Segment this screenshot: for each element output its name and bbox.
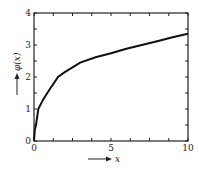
chart: 051001234 x φ(x) [0, 0, 199, 170]
arrow-right-icon [106, 157, 112, 162]
arrow-up-icon [15, 73, 20, 79]
svg-text:3: 3 [25, 40, 31, 50]
phi-curve [34, 34, 188, 141]
svg-text:10: 10 [182, 143, 194, 153]
svg-text:5: 5 [108, 143, 114, 153]
tick-labels: 051001234 [25, 8, 194, 153]
svg-text:4: 4 [25, 8, 31, 18]
x-axis-label: x [88, 154, 120, 164]
y-axis-label: φ(x) [12, 52, 22, 95]
svg-text:0: 0 [31, 143, 37, 153]
svg-text:x: x [115, 154, 120, 164]
svg-text:2: 2 [25, 72, 31, 82]
svg-text:φ(x): φ(x) [12, 52, 22, 71]
svg-text:1: 1 [25, 104, 31, 114]
svg-text:0: 0 [25, 136, 31, 146]
